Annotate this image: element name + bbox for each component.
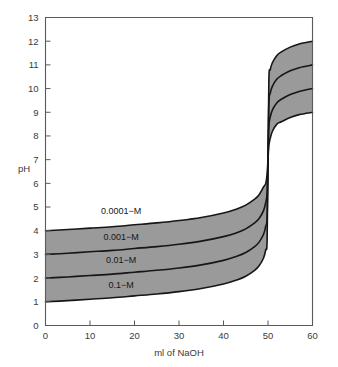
y-tick-label: 5 (33, 201, 38, 212)
x-tick-label: 60 (307, 330, 318, 341)
x-axis-ticks: 0102030405060 (43, 321, 318, 341)
annotation-0.01−M: 0.01−M (106, 255, 136, 265)
chart-canvas: 0102030405060 012345678910111213 0.0001−… (0, 0, 338, 367)
y-axis-title: pH (18, 163, 30, 174)
x-tick-label: 50 (263, 330, 274, 341)
y-tick-label: 12 (28, 36, 39, 47)
titration-chart-figure: 0102030405060 012345678910111213 0.0001−… (0, 0, 338, 367)
curve-0.0001-M (46, 112, 313, 230)
y-tick-label: 1 (33, 296, 38, 307)
annotation-0.0001−M: 0.0001−M (101, 206, 141, 216)
y-tick-label: 10 (28, 83, 39, 94)
shaded-bands-group (46, 41, 313, 302)
annotation-0.1−M: 0.1−M (109, 280, 134, 290)
x-tick-label: 40 (218, 330, 229, 341)
y-tick-label: 6 (33, 178, 38, 189)
x-tick-label: 20 (129, 330, 140, 341)
y-tick-label: 11 (29, 59, 39, 70)
annotation-0.001−M: 0.001−M (104, 232, 139, 242)
x-axis-title: ml of NaOH (154, 347, 204, 358)
y-tick-label: 8 (33, 130, 38, 141)
y-tick-label: 4 (33, 225, 38, 236)
y-tick-label: 2 (33, 273, 38, 284)
y-tick-label: 3 (33, 249, 38, 260)
y-tick-label: 13 (28, 12, 39, 23)
x-tick-label: 0 (43, 330, 48, 341)
y-tick-label: 9 (33, 107, 38, 118)
x-tick-label: 30 (174, 330, 185, 341)
y-tick-label: 0 (33, 320, 38, 331)
shaded-band (46, 89, 313, 255)
x-tick-label: 10 (85, 330, 96, 341)
y-tick-label: 7 (33, 154, 38, 165)
